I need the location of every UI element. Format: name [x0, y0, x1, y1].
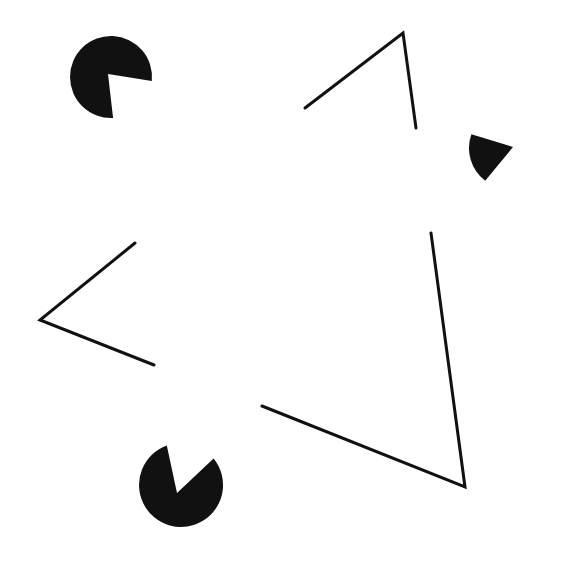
kanizsa-figure [0, 0, 584, 565]
